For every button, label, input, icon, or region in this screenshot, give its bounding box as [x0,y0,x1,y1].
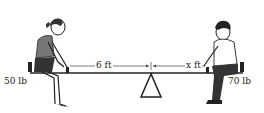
left-weight-label: 50 lb [4,77,27,86]
left-distance-label: 6 ft [95,61,113,70]
boy-figure [204,21,244,104]
seesaw-diagram [0,0,264,113]
fulcrum-triangle [141,74,161,97]
right-distance-label: x ft [185,61,202,70]
right-distance-variable: x [186,60,191,70]
right-distance-unit: ft [194,60,201,70]
right-arrowhead [153,65,156,68]
left-arrowhead [146,65,149,68]
left-handle [66,67,69,73]
girl-figure [28,19,70,107]
right-weight-label: 70 lb [228,77,251,86]
right-handle [206,67,209,73]
